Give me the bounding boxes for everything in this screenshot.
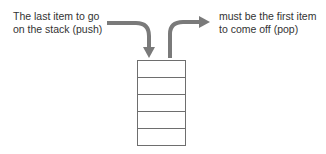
stack-diagram — [0, 0, 326, 154]
push-arrow-icon — [107, 23, 155, 58]
stack-box — [138, 61, 186, 146]
pop-arrow-icon — [170, 16, 210, 58]
